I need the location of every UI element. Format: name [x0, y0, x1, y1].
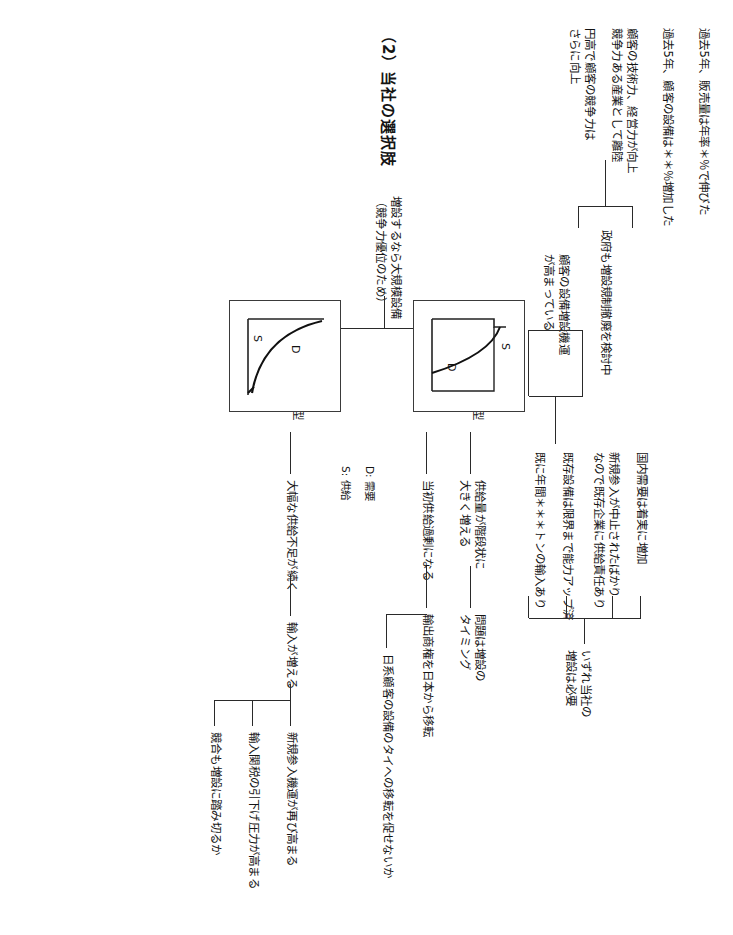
supply-first-consequence-1: 供給量が階段状に 大きく増える: [457, 480, 487, 570]
demand-final-arm-1: [640, 596, 641, 618]
demand-node-b: 国内需要は着実に増加: [634, 452, 649, 564]
demand-node-f: いずれ当社の 増設は必要: [563, 650, 593, 717]
demand-final-stem: [584, 618, 585, 644]
demand-final-brace: [529, 618, 641, 619]
demand-first-branch-stem: [290, 684, 291, 700]
chart-legend-supply: S: 供給: [338, 466, 353, 500]
premise-brace-vertical: [579, 206, 633, 207]
premise-item-1: 過去5年、販売量は年率＊％で伸びた: [696, 28, 711, 215]
demand-first-chart: D S: [229, 300, 341, 412]
option-split-stem: [384, 296, 385, 328]
demand-first-dash-1: [290, 432, 291, 474]
demand-node-a: 顧客の設備増設機運 が高まっている: [541, 254, 571, 355]
supply-first-branch-vertical: [387, 614, 427, 615]
demand-final-arm-2: [612, 596, 613, 618]
supply-first-consequence-3: 問題は増設の タイミング: [457, 614, 487, 681]
demand-a-to-b-arm2: [582, 330, 583, 396]
demand-first-dash-2: [290, 574, 291, 616]
demand-first-consequence-5: 競合も増設に踏み切るか: [208, 732, 223, 855]
demand-first-chart-label-s: S: [251, 335, 264, 342]
premise-item-5: 政府も増設規制撤廃を検討中: [598, 230, 613, 376]
demand-node-d: 既存設備は限界まで能力アップ済: [560, 452, 575, 620]
premise-item-3: 顧客の技術力、経営力が向上 競争力ある産業として離陸: [609, 28, 639, 174]
demand-first-branch-arm-3: [214, 700, 215, 726]
logic-tree-sheet: 過去5年、販売量は年率＊％で伸びた 過去5年、顧客の設備は＊＊％増加した 顧客の…: [0, 0, 733, 935]
supply-first-chart-svg: S D: [416, 301, 524, 409]
demand-first-chart-svg: D S: [232, 301, 340, 409]
demand-a-to-b-arm: [528, 330, 529, 396]
scanned-page: 過去5年、販売量は年率＊％で伸びた 過去5年、顧客の設備は＊＊％増加した 顧客の…: [0, 0, 733, 935]
demand-b-stem: [529, 396, 583, 397]
premise-item-4: 円高で顧客の競争力は さらに向上: [567, 28, 597, 140]
supply-first-consequence-2: 当初供給過剰になる: [420, 480, 435, 581]
supply-first-dash-1: [470, 432, 471, 474]
supply-first-chart: S D: [413, 300, 525, 412]
demand-first-branch-vertical: [215, 700, 291, 701]
premise-brace-arm-top: [632, 206, 633, 228]
demand-first-consequence-2: 輸入が増える: [284, 622, 299, 689]
supply-first-dash-4: [426, 566, 427, 608]
supply-first-consequence-4: 輸出商権を日本から移転: [420, 614, 435, 737]
premise-item-2: 過去5年、顧客の設備は＊＊％増加した: [660, 28, 675, 226]
supply-first-consequence-5: 日系顧客の設備のタイへの移転を促せないか: [380, 654, 395, 878]
chart-legend-demand: D: 需要: [362, 466, 377, 501]
premise-brace-arm-bottom: [578, 206, 579, 228]
supply-first-chart-label-d: D: [445, 363, 458, 371]
supply-first-branch-arm: [386, 614, 387, 648]
premise-brace-out: [605, 160, 606, 206]
demand-first-branch-arm-2: [252, 700, 253, 726]
demand-first-branch-arm-1: [290, 700, 291, 726]
demand-a-to-b-vertical: [529, 330, 583, 331]
demand-node-c: 新規参入が中止されたばかり なので既存企業に供給責任あり: [591, 452, 621, 609]
supply-first-chart-label-s: S: [499, 343, 512, 350]
demand-first-consequence-1: 大幅な供給不足が続く: [284, 480, 299, 592]
options-heading: 増設するなら大規模設備 （競争力優位のため）: [373, 196, 403, 319]
demand-final-arm-3: [566, 596, 567, 618]
demand-final-arm-4: [528, 596, 529, 618]
demand-first-consequence-3: 新規参入機運が再び高まる: [284, 732, 299, 866]
demand-first-consequence-4: 輸入関税の引下げ圧力が高まる: [246, 732, 261, 889]
supply-first-dash-3: [426, 432, 427, 474]
demand-first-chart-label-d: D: [289, 345, 302, 353]
supply-first-dash-2: [470, 566, 471, 608]
demand-b-lead: [555, 396, 556, 444]
section-title: （2）当社の選択肢: [378, 28, 397, 167]
demand-node-e: 既に年間＊＊＊トンの輸入あり: [532, 452, 547, 609]
